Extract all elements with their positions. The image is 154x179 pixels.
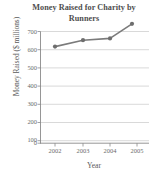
data-point-2004 bbox=[108, 36, 112, 40]
chart-container: Money Raised for Charity by Runners Mone… bbox=[0, 0, 154, 179]
data-point-2003 bbox=[81, 38, 85, 42]
data-point-2005 bbox=[130, 22, 134, 26]
x-axis-ticks bbox=[55, 143, 137, 146]
data-point-2002 bbox=[53, 45, 57, 49]
data-line-series-1 bbox=[55, 24, 132, 47]
plot-area bbox=[0, 0, 154, 179]
